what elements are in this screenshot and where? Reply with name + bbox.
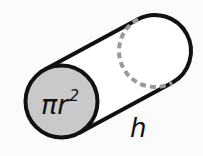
cylinder-diagram: πr2 h	[0, 0, 203, 156]
cylinder-figure: πr2 h	[0, 0, 203, 156]
height-label: h	[130, 113, 146, 143]
exponent: 2	[69, 87, 79, 105]
pi-symbol: π	[41, 89, 58, 120]
radius-variable: r	[57, 89, 70, 120]
